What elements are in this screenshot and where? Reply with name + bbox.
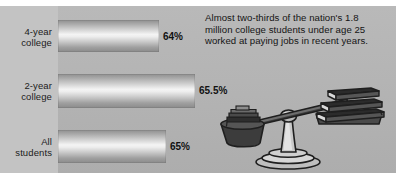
blurb-text: Almost two-thirds of the nation's 1.8 mi… [205,12,385,47]
bar-category-label-2: All students [0,136,52,158]
bar-category-label-2-line2: students [0,147,52,158]
bar-track-1 [58,74,195,108]
bar-track-0 [58,20,159,52]
infographic-root: 4-year college 64% 2-year college 65.5% … [0,0,403,181]
bar-1 [58,74,195,108]
bar-2 [58,130,166,163]
bar-track-2 [58,130,166,163]
bar-category-label-1-line2: college [0,91,52,102]
bar-0 [58,20,159,52]
bar-value-label-0: 64% [163,31,183,42]
bar-category-label-0: 4-year college [0,26,52,48]
bar-category-label-1: 2-year college [0,80,52,102]
bar-category-label-0-line1: 4-year [0,26,52,37]
bar-category-label-1-line1: 2-year [0,80,52,91]
bar-value-label-2: 65% [170,141,190,152]
bar-category-label-0-line2: college [0,37,52,48]
bar-category-label-2-line1: All [0,136,52,147]
balance-scale-icon [216,82,388,170]
